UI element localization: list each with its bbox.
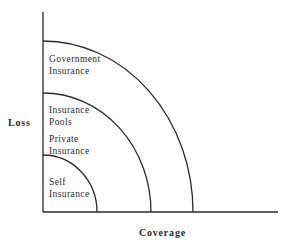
region-label-line: Insurance bbox=[49, 146, 90, 156]
region-label-self-insurance: Self Insurance bbox=[49, 177, 90, 199]
region-label-line: Insurance bbox=[49, 66, 90, 76]
region-label-line: Insurance bbox=[49, 105, 90, 115]
x-axis-label: Coverage bbox=[139, 227, 186, 238]
region-label-line: Government bbox=[49, 54, 101, 64]
y-axis-label: Loss bbox=[8, 117, 31, 128]
region-label-line: Self bbox=[49, 177, 66, 187]
region-label-line: Insurance bbox=[49, 189, 90, 199]
region-label-line: Private bbox=[49, 134, 79, 144]
region-label-private-insurance: Private Insurance bbox=[49, 134, 90, 156]
region-label-insurance-pools: Insurance Pools bbox=[49, 105, 90, 127]
region-label-government-insurance: Government Insurance bbox=[49, 54, 101, 76]
insurance-coverage-diagram: Government Insurance Insurance Pools Pri… bbox=[0, 0, 290, 244]
region-label-line: Pools bbox=[49, 117, 72, 127]
